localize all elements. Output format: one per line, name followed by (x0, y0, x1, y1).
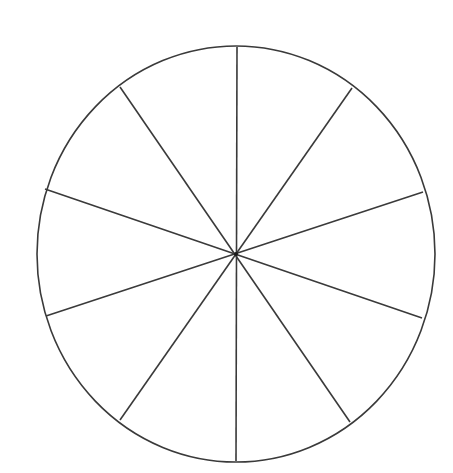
wheel-svg (0, 0, 453, 473)
center-point (234, 252, 238, 256)
spokes-group (45, 47, 423, 461)
pie-wheel-diagram (0, 0, 453, 473)
